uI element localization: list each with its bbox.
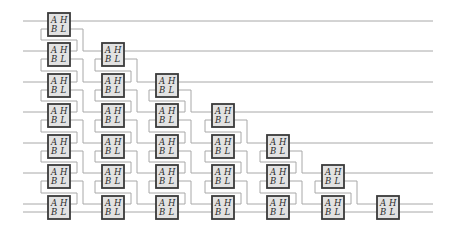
label-b: B bbox=[269, 207, 276, 217]
compare-cell-col-2-row-3: AHBL bbox=[156, 104, 178, 127]
compare-cell-col-1-row-2: AHBL bbox=[102, 74, 124, 97]
label-l: L bbox=[60, 176, 67, 186]
label-b: B bbox=[50, 146, 57, 156]
label-b: B bbox=[50, 176, 57, 186]
compare-cell-col-0-row-0: AHBL bbox=[48, 13, 70, 36]
compare-cell-col-1-row-1: AHBL bbox=[102, 43, 124, 66]
compare-cell-col-2-row-6: AHBL bbox=[156, 196, 178, 219]
label-l: L bbox=[334, 207, 341, 217]
label-l: L bbox=[60, 115, 67, 125]
label-l: L bbox=[114, 85, 121, 95]
compare-cell-col-6-row-6: AHBL bbox=[377, 196, 399, 219]
compare-cell-col-0-row-5: AHBL bbox=[48, 165, 70, 188]
compare-cell-col-1-row-6: AHBL bbox=[102, 196, 124, 219]
label-b: B bbox=[50, 54, 57, 64]
compare-cell-col-2-row-4: AHBL bbox=[156, 135, 178, 158]
compare-cell-col-1-row-4: AHBL bbox=[102, 135, 124, 158]
compare-cell-col-3-row-5: AHBL bbox=[212, 165, 234, 188]
label-l: L bbox=[168, 207, 175, 217]
sorting-network-diagram: AHBLAHBLAHBLAHBLAHBLAHBLAHBLAHBLAHBLAHBL… bbox=[0, 0, 456, 235]
label-b: B bbox=[214, 146, 221, 156]
compare-cell-col-4-row-4: AHBL bbox=[267, 135, 289, 158]
compare-cell-col-3-row-6: AHBL bbox=[212, 196, 234, 219]
compare-cell-col-3-row-4: AHBL bbox=[212, 135, 234, 158]
label-l: L bbox=[168, 146, 175, 156]
compare-cell-col-4-row-6: AHBL bbox=[267, 196, 289, 219]
label-l: L bbox=[168, 115, 175, 125]
label-l: L bbox=[224, 146, 231, 156]
label-l: L bbox=[224, 207, 231, 217]
compare-cell-col-5-row-6: AHBL bbox=[322, 196, 344, 219]
label-l: L bbox=[168, 85, 175, 95]
label-b: B bbox=[50, 85, 57, 95]
label-l: L bbox=[279, 207, 286, 217]
label-l: L bbox=[60, 146, 67, 156]
label-l: L bbox=[60, 54, 67, 64]
label-b: B bbox=[324, 207, 331, 217]
label-b: B bbox=[50, 24, 57, 34]
label-b: B bbox=[50, 115, 57, 125]
label-b: B bbox=[158, 207, 165, 217]
label-b: B bbox=[158, 85, 165, 95]
label-l: L bbox=[279, 146, 286, 156]
label-b: B bbox=[214, 115, 221, 125]
label-l: L bbox=[114, 146, 121, 156]
label-l: L bbox=[114, 176, 121, 186]
label-b: B bbox=[104, 85, 111, 95]
label-l: L bbox=[168, 176, 175, 186]
label-l: L bbox=[60, 85, 67, 95]
label-l: L bbox=[114, 207, 121, 217]
label-l: L bbox=[389, 207, 396, 217]
compare-cell-col-0-row-6: AHBL bbox=[48, 196, 70, 219]
compare-cell-col-1-row-5: AHBL bbox=[102, 165, 124, 188]
label-b: B bbox=[269, 146, 276, 156]
label-b: B bbox=[104, 176, 111, 186]
compare-cell-col-1-row-3: AHBL bbox=[102, 104, 124, 127]
label-b: B bbox=[158, 115, 165, 125]
label-b: B bbox=[158, 146, 165, 156]
compare-cell-col-0-row-3: AHBL bbox=[48, 104, 70, 127]
label-b: B bbox=[269, 176, 276, 186]
label-l: L bbox=[60, 207, 67, 217]
label-b: B bbox=[50, 207, 57, 217]
compare-cell-col-5-row-5: AHBL bbox=[322, 165, 344, 188]
label-b: B bbox=[104, 54, 111, 64]
compare-cell-col-0-row-2: AHBL bbox=[48, 74, 70, 97]
label-l: L bbox=[334, 176, 341, 186]
label-b: B bbox=[104, 146, 111, 156]
label-l: L bbox=[224, 176, 231, 186]
label-b: B bbox=[379, 207, 386, 217]
label-l: L bbox=[224, 115, 231, 125]
label-b: B bbox=[104, 115, 111, 125]
label-l: L bbox=[60, 24, 67, 34]
label-l: L bbox=[114, 54, 121, 64]
label-b: B bbox=[324, 176, 331, 186]
label-b: B bbox=[158, 176, 165, 186]
compare-cell-col-3-row-3: AHBL bbox=[212, 104, 234, 127]
cells-layer: AHBLAHBLAHBLAHBLAHBLAHBLAHBLAHBLAHBLAHBL… bbox=[48, 13, 399, 219]
compare-cell-col-4-row-5: AHBL bbox=[267, 165, 289, 188]
compare-cell-col-2-row-2: AHBL bbox=[156, 74, 178, 97]
label-b: B bbox=[214, 176, 221, 186]
label-l: L bbox=[279, 176, 286, 186]
label-b: B bbox=[104, 207, 111, 217]
label-l: L bbox=[114, 115, 121, 125]
label-b: B bbox=[214, 207, 221, 217]
compare-cell-col-0-row-4: AHBL bbox=[48, 135, 70, 158]
compare-cell-col-0-row-1: AHBL bbox=[48, 43, 70, 66]
compare-cell-col-2-row-5: AHBL bbox=[156, 165, 178, 188]
